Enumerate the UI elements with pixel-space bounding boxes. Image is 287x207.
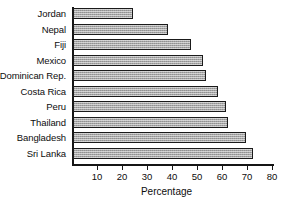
x-axis-tick-label: 30 <box>135 171 159 182</box>
bar-series <box>73 8 273 163</box>
x-axis-tick-label: 20 <box>110 171 134 182</box>
x-axis: 1020304050607080 <box>72 164 274 166</box>
plot-area <box>72 7 273 164</box>
bar-chart: JordanNepalFijiMexicoDominican Rep.Costa… <box>0 0 287 207</box>
category-label: Mexico <box>37 55 67 66</box>
bar <box>73 86 218 97</box>
x-axis-tick-label: 60 <box>210 171 234 182</box>
bar <box>73 55 203 66</box>
bar <box>73 101 226 112</box>
category-label: Nepal <box>42 24 66 35</box>
category-label: Costa Rica <box>21 86 66 97</box>
bar <box>73 8 133 19</box>
x-axis-tick <box>172 165 173 170</box>
category-label: Dominican Rep. <box>0 70 66 81</box>
x-axis-tick-label: 80 <box>260 171 284 182</box>
x-axis-tick <box>97 165 98 170</box>
x-axis-tick <box>247 165 248 170</box>
x-axis-tick-label: 10 <box>85 171 109 182</box>
category-label: Bangladesh <box>17 132 66 143</box>
bar <box>73 117 228 128</box>
category-label: Peru <box>46 101 66 112</box>
category-label: Thailand <box>30 117 66 128</box>
x-axis-tick <box>197 165 198 170</box>
bar <box>73 24 168 35</box>
bar <box>73 70 206 81</box>
x-axis-tick-label: 70 <box>235 171 259 182</box>
x-axis-tick <box>147 165 148 170</box>
bar <box>73 148 253 159</box>
x-axis-title: Percentage <box>0 186 287 198</box>
category-label: Fiji <box>54 39 66 50</box>
category-label: Jordan <box>38 8 66 19</box>
category-label: Sri Lanka <box>27 148 66 159</box>
category-axis-labels: JordanNepalFijiMexicoDominican Rep.Costa… <box>0 8 69 163</box>
x-axis-tick <box>272 165 273 170</box>
x-axis-tick-label: 40 <box>160 171 184 182</box>
bar <box>73 39 191 50</box>
x-axis-tick <box>122 165 123 170</box>
bar <box>73 132 246 143</box>
x-axis-tick-label: 50 <box>185 171 209 182</box>
x-axis-tick <box>222 165 223 170</box>
